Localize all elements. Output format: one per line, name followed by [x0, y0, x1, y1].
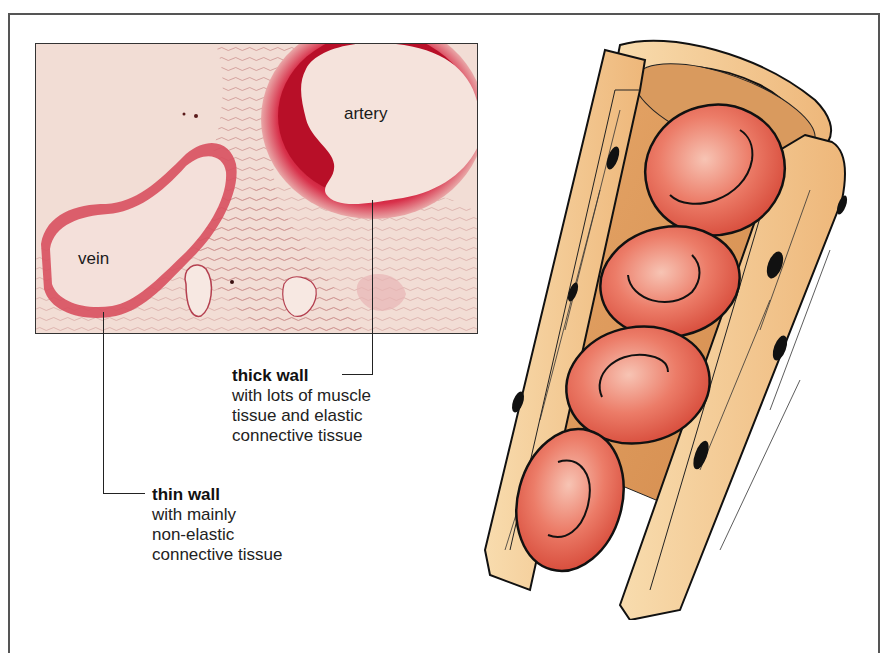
vein-leader-line-horizontal [103, 493, 145, 494]
thick-wall-line: connective tissue [232, 426, 371, 446]
artery-label: artery [344, 104, 387, 124]
thin-wall-title: thin wall [152, 485, 282, 505]
thick-wall-title: thick wall [232, 366, 371, 386]
thick-wall-caption: thick wall with lots of muscle tissue an… [232, 366, 371, 446]
capillary-illustration [470, 30, 870, 620]
tissue-section-image [36, 44, 478, 334]
thick-wall-line: with lots of muscle [232, 386, 371, 406]
thin-wall-line: with mainly [152, 505, 282, 525]
vein-leader-line-vertical [103, 312, 104, 494]
micrograph-artery-vein: artery vein [35, 43, 478, 334]
thin-wall-caption: thin wall with mainly non-elastic connec… [152, 485, 282, 565]
thick-wall-line: tissue and elastic [232, 406, 371, 426]
thin-wall-line: non-elastic [152, 525, 282, 545]
artery-leader-line-vertical [372, 200, 373, 375]
thin-wall-line: connective tissue [152, 545, 282, 565]
vein-label: vein [78, 249, 109, 269]
